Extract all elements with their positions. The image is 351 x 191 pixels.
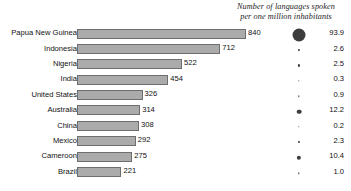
per-million-value: 12.2 <box>312 105 344 115</box>
bar-value-label: 314 <box>142 105 155 115</box>
per-million-dot-cell <box>288 135 310 150</box>
right-column-header-line-1: Number of languages spoken <box>222 2 350 12</box>
bar <box>77 136 136 146</box>
bar-value-label: 221 <box>123 166 136 176</box>
bar-track <box>77 136 136 146</box>
chart-row: Australia31412.2 <box>0 104 351 119</box>
bar-track <box>77 105 140 115</box>
per-million-value: 2.3 <box>312 136 344 146</box>
bar-value-label: 308 <box>141 120 154 130</box>
bar-track <box>77 29 246 39</box>
country-label: China <box>0 121 77 131</box>
bar <box>77 167 121 177</box>
per-million-value: 93.9 <box>312 28 344 38</box>
bar-track <box>77 90 143 100</box>
bar-track <box>77 44 220 54</box>
bar-value-label: 712 <box>222 43 235 53</box>
country-label: Mexico <box>0 136 77 146</box>
per-million-value: 2.6 <box>312 44 344 54</box>
chart-row: Cameroon27510.4 <box>0 150 351 165</box>
per-million-dot-cell <box>288 58 310 73</box>
per-million-dot-cell <box>288 42 310 57</box>
per-million-dot <box>298 126 299 127</box>
per-million-value: 2.5 <box>312 59 344 69</box>
language-diversity-chart: Number of languages spoken per one milli… <box>0 0 351 191</box>
chart-row: United States3260.9 <box>0 89 351 104</box>
per-million-dot-cell <box>288 89 310 104</box>
bar-value-label: 454 <box>170 74 183 84</box>
per-million-dot <box>298 141 300 143</box>
bar <box>77 152 132 162</box>
bar <box>77 121 139 131</box>
bar-track <box>77 167 121 177</box>
per-million-dot-cell <box>288 104 310 119</box>
country-label: Cameroon <box>0 151 77 161</box>
bar <box>77 105 140 115</box>
per-million-dot <box>298 64 300 66</box>
per-million-dot-cell <box>288 119 310 134</box>
per-million-dot <box>298 96 299 97</box>
bar-track <box>77 75 168 85</box>
country-label: Brazil <box>0 167 77 177</box>
bar <box>77 44 220 54</box>
bar <box>77 29 246 39</box>
country-label: India <box>0 74 77 84</box>
per-million-dot <box>298 173 299 174</box>
per-million-dot-cell <box>288 150 310 165</box>
bar-value-label: 292 <box>138 135 151 145</box>
per-million-value: 0.3 <box>312 74 344 84</box>
bar-track <box>77 121 139 131</box>
per-million-dot-cell <box>288 27 310 42</box>
right-column-header-line-2: per one million inhabitants <box>222 12 350 22</box>
bar <box>77 59 182 69</box>
chart-row: India4540.3 <box>0 73 351 88</box>
country-label: Papua New Guinea <box>0 28 77 38</box>
right-column-header: Number of languages spoken per one milli… <box>222 2 350 22</box>
bar-value-label: 275 <box>134 151 147 161</box>
per-million-dot <box>298 80 299 81</box>
chart-row: China3080.2 <box>0 119 351 134</box>
chart-rows: Papua New Guinea84093.9Indonesia7122.6Ni… <box>0 27 351 181</box>
per-million-value: 0.2 <box>312 121 344 131</box>
country-label: Indonesia <box>0 44 77 54</box>
per-million-dot-cell <box>288 166 310 181</box>
per-million-dot <box>293 28 306 41</box>
per-million-value: 0.9 <box>312 90 344 100</box>
per-million-value: 1.0 <box>312 167 344 177</box>
country-label: Australia <box>0 105 77 115</box>
country-label: United States <box>0 90 77 100</box>
bar <box>77 75 168 85</box>
per-million-value: 10.4 <box>312 151 344 161</box>
per-million-dot <box>297 156 301 160</box>
chart-row: Brazil2211.0 <box>0 166 351 181</box>
bar <box>77 90 143 100</box>
per-million-dot-cell <box>288 73 310 88</box>
country-label: Nigeria <box>0 59 77 69</box>
chart-row: Papua New Guinea84093.9 <box>0 27 351 42</box>
chart-row: Nigeria5222.5 <box>0 58 351 73</box>
bar-track <box>77 59 182 69</box>
bar-track <box>77 152 132 162</box>
chart-row: Mexico2922.3 <box>0 135 351 150</box>
chart-row: Indonesia7122.6 <box>0 42 351 57</box>
per-million-dot <box>297 109 302 114</box>
bar-value-label: 840 <box>248 28 261 38</box>
per-million-dot <box>298 49 300 51</box>
bar-value-label: 326 <box>145 89 158 99</box>
bar-value-label: 522 <box>184 58 197 68</box>
